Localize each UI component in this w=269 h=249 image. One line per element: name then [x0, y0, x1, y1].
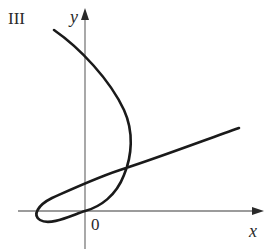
x-axis-arrow-icon — [252, 207, 264, 215]
y-axis-label: y — [70, 8, 78, 26]
x-axis-label: x — [249, 222, 257, 240]
y-axis-arrow-icon — [81, 8, 89, 20]
origin-label: 0 — [91, 216, 100, 233]
panel-label: III — [8, 10, 25, 27]
parametric-curve-figure: III y x 0 — [0, 0, 269, 249]
plot-canvas — [0, 0, 269, 249]
curve — [36, 30, 239, 222]
